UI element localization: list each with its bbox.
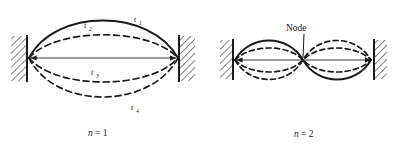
left-wall-n1 [11, 35, 27, 82]
wall-hatching [179, 36, 195, 81]
right-wall-n1 [179, 35, 195, 82]
node-leader-line [303, 34, 304, 58]
label-t1-sub: 1 [139, 20, 142, 26]
label-t2-sub: 2 [89, 26, 92, 32]
label-t3-sub: 3 [95, 73, 99, 79]
label-t2: t 2 [84, 21, 92, 32]
label-t1: t 1 [134, 15, 142, 26]
figure-canvas: t 1 t 2 t 3 t 4 n = 1 [0, 0, 403, 145]
wave-curve-t4 [29, 58, 178, 97]
caption-n1: n = 1 [88, 128, 108, 138]
caption-n2-value: = 2 [301, 129, 314, 139]
panel-n2: Node n = 2 [220, 23, 387, 139]
caption-n1-symbol: n [88, 128, 93, 138]
left-wall-n2 [220, 39, 233, 80]
physics-standing-wave-figure: t 1 t 2 t 3 t 4 n = 1 [0, 0, 403, 145]
wave-curve-t2 [29, 35, 178, 58]
wave-curve-t3 [29, 58, 178, 82]
right-wall-n2 [374, 39, 387, 80]
wall-hatching [374, 40, 387, 79]
caption-n2-symbol: n [294, 129, 299, 139]
label-t1-base: t [134, 15, 137, 24]
label-t4-sub: 4 [136, 108, 139, 114]
node-label: Node [286, 23, 307, 33]
wave-curve-t1 [29, 21, 178, 59]
wall-hatching [11, 36, 27, 81]
label-t4-base: t [131, 103, 134, 112]
caption-n1-value: = 1 [95, 128, 108, 138]
label-t3: t 3 [91, 68, 99, 79]
wall-hatching [220, 40, 233, 79]
panel-n1: t 1 t 2 t 3 t 4 n = 1 [11, 15, 195, 138]
caption-n2: n = 2 [294, 129, 314, 139]
label-t4: t 4 [131, 103, 139, 114]
label-t3-base: t [91, 68, 94, 77]
